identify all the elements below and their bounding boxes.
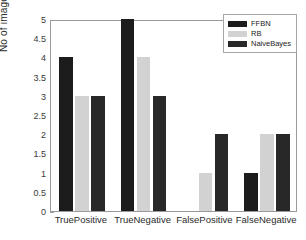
y-tick-label: 3 [4,92,50,102]
bar [153,96,167,211]
y-tick-label: 4 [4,53,50,63]
legend-item[interactable]: NaiveBayes [228,39,291,48]
x-tick-label: FalseNegative [236,214,297,225]
y-tick-label: 2.5 [4,111,50,121]
bar-chart-figure: No of image 54.543.532.521.510.50 TruePo… [0,0,306,240]
legend-swatch [228,31,247,37]
x-tick-label: TruePositive [55,214,107,225]
y-tick-label: 0 [4,207,50,217]
bar [199,173,213,211]
bar [137,57,151,211]
y-tick-label: 5 [4,15,50,25]
y-tick-label: 1 [4,169,50,179]
legend-label: RB [251,29,261,38]
bar [75,96,89,211]
y-tick-label: 3.5 [4,73,50,83]
legend-item[interactable]: RB [228,29,291,38]
legend-swatch [228,21,247,27]
legend-item[interactable]: FFBN [228,19,291,28]
legend-label: NaiveBayes [251,39,291,48]
bar [59,57,73,211]
legend-swatch [228,41,247,47]
y-tick-label: 4.5 [4,34,50,44]
bar [91,96,105,211]
bar [244,173,258,211]
y-tick-mark [50,212,54,213]
x-tick-label: TrueNegative [114,214,171,225]
legend: FFBNRBNaiveBayes [223,14,297,53]
bar [215,134,229,211]
bar [121,19,135,211]
x-tick-label: FalsePositive [176,214,233,225]
y-tick-label: 0.5 [4,188,50,198]
y-tick-label: 2 [4,130,50,140]
bar [276,134,290,211]
y-tick-label: 1.5 [4,149,50,159]
legend-label: FFBN [251,19,271,28]
bar [260,134,274,211]
